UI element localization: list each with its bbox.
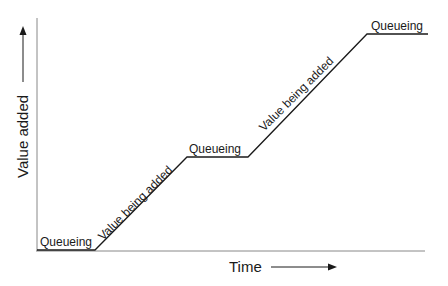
y-axis-label: Value added — [14, 95, 31, 178]
arrow-up-icon — [20, 26, 27, 35]
segment-label-queueing-2: Queueing — [189, 142, 241, 156]
segment-label-value-2: Value being added — [256, 54, 336, 134]
segment-label-value-1: Value being added — [95, 163, 175, 243]
x-axis-label: Time — [229, 258, 262, 275]
segment-label-queueing-3: Queueing — [371, 19, 423, 33]
value-added-diagram: Queueing Value being added Queueing Valu… — [0, 0, 448, 286]
segment-label-queueing-1: Queueing — [40, 235, 92, 249]
arrow-right-icon — [328, 264, 337, 271]
